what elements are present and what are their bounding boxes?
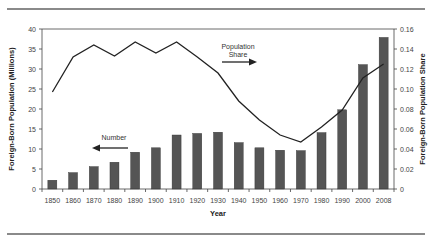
- left-tick-label: 5: [32, 166, 36, 173]
- x-tick-label: 1940: [231, 197, 247, 204]
- arrow-left-icon: [92, 145, 100, 152]
- bar: [69, 173, 78, 189]
- x-tick-label: 1890: [127, 197, 143, 204]
- right-tick-label: 0.04: [400, 146, 414, 153]
- x-tick-label: 1970: [293, 197, 309, 204]
- annotation-share-label-line2: Share: [229, 51, 248, 58]
- right-tick-label: 0.02: [400, 166, 414, 173]
- x-tick-label: 2000: [355, 197, 371, 204]
- left-tick-label: 15: [28, 126, 36, 133]
- x-tick-label: 1950: [252, 197, 268, 204]
- x-axis-title: Year: [210, 209, 226, 218]
- x-tick-label: 2008: [376, 197, 392, 204]
- right-tick-label: 0.12: [400, 66, 414, 73]
- bar: [317, 133, 326, 189]
- right-tick-label: 0.14: [400, 46, 414, 53]
- chart: 0510152025303540 00.020.040.060.080.100.…: [0, 0, 439, 237]
- right-axis-ticks: 00.020.040.060.080.100.120.140.16: [394, 26, 414, 193]
- annotation-number-label: Number: [102, 134, 128, 141]
- x-tick-label: 1980: [314, 197, 330, 204]
- x-tick-label: 1900: [148, 197, 164, 204]
- x-tick-label: 1910: [169, 197, 185, 204]
- x-tick-label: 1870: [86, 197, 102, 204]
- x-tick-label: 1960: [272, 197, 288, 204]
- bar: [276, 150, 285, 189]
- line-series-population-share: [52, 42, 383, 142]
- bar-series-number: [48, 37, 388, 189]
- left-tick-label: 30: [28, 66, 36, 73]
- x-tick-label: 1860: [65, 197, 81, 204]
- bar: [48, 180, 57, 189]
- x-tick-label: 1990: [334, 197, 350, 204]
- left-tick-label: 35: [28, 46, 36, 53]
- left-tick-label: 10: [28, 146, 36, 153]
- left-tick-label: 25: [28, 86, 36, 93]
- right-tick-label: 0.16: [400, 26, 414, 33]
- left-axis-title: Foreign-Born Population (Millions): [7, 47, 16, 171]
- x-axis-ticks: 1850186018701880189019001910192019301940…: [42, 189, 394, 204]
- left-tick-label: 0: [32, 186, 36, 193]
- bar: [151, 148, 160, 189]
- bar: [110, 162, 119, 189]
- right-tick-label: 0.08: [400, 106, 414, 113]
- bar: [131, 152, 140, 189]
- arrow-right-icon: [249, 59, 257, 66]
- left-tick-label: 40: [28, 26, 36, 33]
- right-tick-label: 0: [400, 186, 404, 193]
- left-tick-label: 20: [28, 106, 36, 113]
- bar: [379, 37, 388, 189]
- bar: [296, 151, 305, 189]
- bar: [89, 167, 98, 189]
- bar: [338, 110, 347, 189]
- x-tick-label: 1920: [190, 197, 206, 204]
- x-tick-label: 1850: [45, 197, 61, 204]
- left-axis-ticks: 0510152025303540: [28, 26, 42, 193]
- bar: [172, 135, 181, 189]
- annotation-share-label-line1: Population: [221, 43, 254, 51]
- bar: [255, 148, 264, 189]
- x-tick-label: 1880: [107, 197, 123, 204]
- right-axis-title: Foreign-Born Population Share: [418, 53, 427, 164]
- bar: [214, 132, 223, 189]
- bar: [193, 133, 202, 189]
- x-tick-label: 1930: [210, 197, 226, 204]
- bar: [234, 143, 243, 189]
- right-tick-label: 0.06: [400, 126, 414, 133]
- right-tick-label: 0.10: [400, 86, 414, 93]
